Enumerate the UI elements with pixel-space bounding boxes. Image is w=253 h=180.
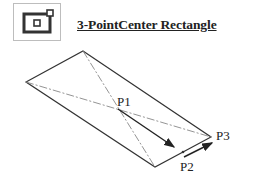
p1-direction-arrow (118, 109, 174, 147)
label-p2: P2 (180, 159, 194, 174)
p2-p3-arrow (184, 143, 212, 157)
rectangle-diagram: P1 P3 P2 (0, 0, 253, 180)
point-p2 (182, 151, 185, 154)
label-p1: P1 (117, 94, 131, 109)
label-p3: P3 (216, 128, 230, 143)
